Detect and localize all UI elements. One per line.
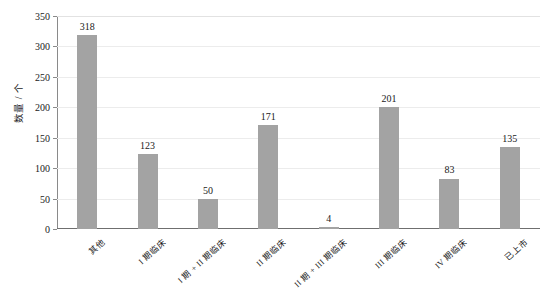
y-tick-label: 0 <box>45 224 50 235</box>
bar <box>258 125 278 229</box>
x-axis-label: IV 期临床 <box>432 235 470 271</box>
x-axis-label: II 期临床 <box>253 235 288 268</box>
bar <box>77 35 97 229</box>
y-tick-mark <box>53 138 57 139</box>
y-tick-label: 100 <box>35 163 50 174</box>
y-tick-label: 150 <box>35 132 50 143</box>
x-axis-label: I 期临床 <box>135 235 168 266</box>
x-axis-labels: 其他I 期临床I 期 + II 期临床II 期临床II 期 + III 期临床I… <box>57 231 540 306</box>
x-axis-label: II 期 + III 期临床 <box>290 235 348 289</box>
bar-value-label: 83 <box>444 164 454 175</box>
y-tick-label: 250 <box>35 71 50 82</box>
y-tick-mark <box>53 16 57 17</box>
y-tick-label: 50 <box>40 193 50 204</box>
y-tick-mark <box>53 107 57 108</box>
gridline <box>57 168 540 169</box>
bar <box>439 179 459 230</box>
x-axis-label: 其他 <box>85 235 107 256</box>
y-tick-mark <box>53 77 57 78</box>
y-tick-label: 350 <box>35 11 50 22</box>
bar <box>198 199 218 229</box>
y-tick-mark <box>53 46 57 47</box>
bar-value-label: 318 <box>80 21 95 32</box>
y-axis-line <box>57 16 58 229</box>
y-tick-label: 200 <box>35 102 50 113</box>
bar-chart: 数量 / 个 050100150200250300350 31812350171… <box>0 0 558 306</box>
bar-value-label: 201 <box>382 93 397 104</box>
y-tick-mark <box>53 199 57 200</box>
bar <box>379 107 399 229</box>
bar <box>138 154 158 229</box>
bar-value-label: 123 <box>140 140 155 151</box>
y-tick-label: 300 <box>35 41 50 52</box>
gridline <box>57 77 540 78</box>
bar-value-label: 171 <box>261 111 276 122</box>
bar-value-label: 135 <box>502 133 517 144</box>
x-axis-label: I 期 + II 期临床 <box>174 235 228 285</box>
x-axis-label: 已上市 <box>501 235 530 263</box>
plot-area: 050100150200250300350 318123501714201831… <box>57 16 540 229</box>
gridline <box>57 16 540 17</box>
x-axis-label: III 期临床 <box>372 235 410 270</box>
y-tick-mark <box>53 229 57 230</box>
bar <box>319 227 339 229</box>
bar <box>500 147 520 229</box>
bar-value-label: 50 <box>203 185 213 196</box>
y-tick-mark <box>53 168 57 169</box>
gridline <box>57 199 540 200</box>
x-axis-line <box>57 228 540 229</box>
bar-value-label: 4 <box>326 213 331 224</box>
gridline <box>57 46 540 47</box>
y-axis-title: 数量 / 个 <box>11 63 25 143</box>
gridline <box>57 107 540 108</box>
gridline <box>57 138 540 139</box>
